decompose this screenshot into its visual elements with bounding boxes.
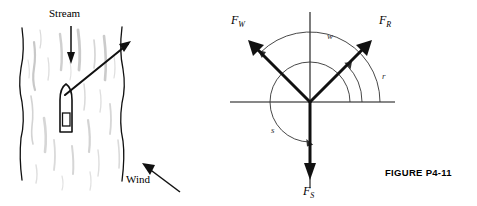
- angle-label-s: s: [271, 126, 275, 135]
- river-scene-panel: Stream Wind: [0, 0, 230, 206]
- angle-arc-r: [344, 62, 362, 102]
- angle-label-w: w: [327, 32, 333, 41]
- vector-FW-subscript: W: [238, 20, 245, 29]
- vector-FW: [248, 40, 310, 102]
- boat-cockpit: [63, 113, 71, 126]
- angle-label-r: r: [382, 72, 386, 81]
- vector-FR-subscript: R: [386, 20, 391, 29]
- left-riverbank: [20, 28, 24, 180]
- river-scene-svg: [0, 0, 230, 206]
- vector-FS: [304, 102, 316, 180]
- vector-label-FW: FW: [231, 14, 245, 29]
- vector-FR: [310, 40, 372, 102]
- tow-rope: [65, 41, 131, 95]
- vector-FS-subscript: S: [310, 191, 314, 200]
- vector-label-FR: FR: [379, 14, 391, 29]
- vector-label-FS: FS: [303, 185, 314, 200]
- wind-label: Wind: [126, 174, 150, 185]
- figure-caption: FIGURE P4-11: [385, 167, 452, 178]
- stream-label: Stream: [49, 8, 80, 19]
- stream-arrow: [67, 26, 75, 64]
- figure-root: Stream Wind: [0, 0, 477, 206]
